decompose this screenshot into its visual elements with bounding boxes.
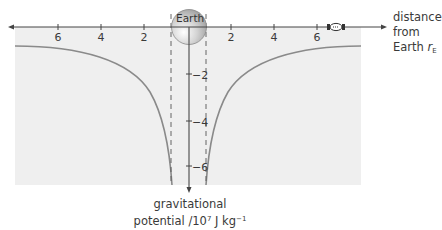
y-tick-label-minus-6: −6 — [192, 161, 208, 174]
y-axis-down-arrow-icon — [187, 187, 192, 193]
satellite-icon — [327, 23, 345, 30]
x-tick-label-right-2: 2 — [228, 31, 235, 44]
y-axis-unit-exponent: −1 — [236, 215, 246, 223]
x-axis-title-line2: from Earth rE — [393, 25, 442, 59]
x-axis-title-line1: distance — [393, 10, 442, 25]
x-tick-label-left-2: 2 — [141, 31, 148, 44]
y-axis-unit: J kg — [211, 214, 236, 228]
y-axis-title-line1: gravitational — [0, 197, 380, 212]
x-axis-title: distance from Earth rE — [393, 10, 442, 59]
x-tick-label-right-6: 6 — [314, 31, 321, 44]
x-axis-left-arrow-icon — [8, 25, 14, 30]
x-tick-label-left-4: 4 — [98, 31, 105, 44]
plot-background — [15, 27, 361, 185]
y-tick-label-minus-2: −2 — [192, 69, 208, 82]
y-tick-label-minus-4: −4 — [192, 116, 208, 129]
x-axis-subscript: E — [432, 47, 436, 55]
earth-label: Earth — [176, 12, 204, 24]
y-axis-title: gravitational potential /107 J kg−1 — [0, 197, 380, 229]
x-tick-label-left-6: 6 — [55, 31, 62, 44]
y-axis-title-prefix: potential /10 — [134, 214, 207, 228]
y-axis-title-line2: potential /107 J kg−1 — [0, 212, 380, 229]
x-axis-right-arrow-icon — [381, 25, 387, 30]
x-axis-title-text: from Earth — [393, 25, 428, 54]
x-tick-label-right-4: 4 — [271, 31, 278, 44]
